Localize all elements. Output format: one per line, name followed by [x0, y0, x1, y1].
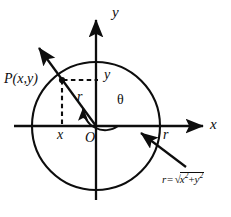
- y-component-label: y: [104, 68, 110, 82]
- point-p-label: P(x,y): [4, 72, 38, 86]
- x-axis-label: x: [210, 117, 217, 132]
- origin-label: O: [85, 131, 95, 145]
- radius-ray: [39, 48, 96, 126]
- radicand: x2+y2: [180, 172, 204, 185]
- radius-formula: r=√x2+y2: [162, 172, 204, 185]
- y-axis-label: y: [112, 5, 119, 20]
- radius-label-on-ray: r: [77, 90, 82, 104]
- point-p-marker: [59, 77, 65, 83]
- formula-y-exponent: 2: [200, 171, 204, 180]
- polar-coordinate-figure: y x P(x,y) y x O r r θ r=√x2+y2: [0, 0, 231, 217]
- x-component-label: x: [57, 128, 63, 142]
- radius-label-on-axis: r: [163, 128, 168, 142]
- formula-lhs: r=: [162, 173, 174, 185]
- angle-theta-label: θ: [117, 93, 124, 107]
